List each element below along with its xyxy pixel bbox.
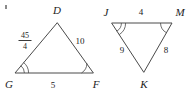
triangle-dgf: D G F 45 4 10 5 (5, 4, 100, 90)
side-length-mk: 8 (164, 45, 169, 55)
scan-artifact-speck (5, 5, 7, 9)
angle-mark-g-arc-1 (21, 66, 25, 73)
angle-mark-j-arc-1 (117, 23, 122, 31)
side-length-gd-denominator: 4 (23, 42, 27, 51)
angle-mark-m (161, 23, 167, 33)
vertex-label-k: K (139, 78, 148, 90)
triangle-jmk: J M K 4 9 8 (104, 6, 186, 90)
side-length-jk: 9 (120, 45, 125, 55)
vertex-label-j: J (104, 6, 110, 18)
vertex-label-g: G (5, 78, 13, 90)
side-length-jm: 4 (139, 7, 144, 17)
vertex-label-d: D (52, 4, 61, 16)
angle-mark-j-arc-2 (119, 23, 126, 35)
vertex-label-m: M (174, 6, 185, 18)
angle-mark-f-arc-1 (82, 63, 87, 73)
side-length-df: 10 (76, 36, 86, 46)
geometry-canvas: D G F 45 4 10 5 (0, 0, 191, 96)
vertex-label-f: F (92, 78, 100, 90)
side-length-gd-numerator: 45 (21, 31, 29, 40)
side-length-gf: 5 (51, 80, 56, 90)
geometry-figure: D G F 45 4 10 5 (0, 0, 191, 96)
side-length-gd-fraction: 45 4 (19, 31, 32, 51)
angle-mark-f (82, 63, 87, 73)
angle-mark-m-arc-1 (161, 23, 167, 33)
